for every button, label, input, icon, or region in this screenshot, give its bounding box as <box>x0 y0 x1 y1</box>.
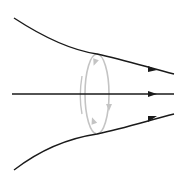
upper-field-line <box>14 18 174 74</box>
loop-inner-stroke <box>81 76 83 114</box>
loop-arrow-bottom-icon <box>89 116 97 125</box>
loop-arrow-right-icon <box>106 104 112 111</box>
middle-arrow-icon <box>148 91 157 97</box>
loop-arrow-top-icon <box>91 58 99 67</box>
field-diagram <box>0 0 182 177</box>
